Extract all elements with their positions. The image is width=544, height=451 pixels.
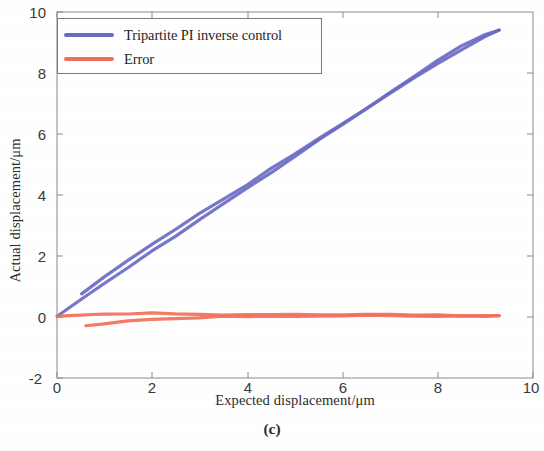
y-tick-label-8: 8 <box>16 65 46 82</box>
y-tick-label-6: 6 <box>16 126 46 143</box>
x-tick-label-6: 6 <box>328 379 358 396</box>
x-tick-label-8: 8 <box>423 379 453 396</box>
x-axis-label: Expected displacement/μm <box>57 392 533 409</box>
x-tick-label-10: 10 <box>516 379 544 396</box>
figure-panel: Actual displacement/μm Expected displace… <box>0 0 544 451</box>
x-tick-label-2: 2 <box>137 379 167 396</box>
legend-swatch-tripartite <box>64 33 114 37</box>
legend-entry-tripartite: Tripartite PI inverse control <box>64 24 282 46</box>
x-tick-label-0: 0 <box>42 379 72 396</box>
y-tick-label-neg2: -2 <box>12 370 42 387</box>
figure-caption: (c) <box>0 420 544 438</box>
legend-label-error: Error <box>124 51 154 68</box>
y-tick-label-2: 2 <box>16 248 46 265</box>
legend-entry-error: Error <box>64 48 154 70</box>
legend-label-tripartite: Tripartite PI inverse control <box>124 27 282 44</box>
legend-swatch-error <box>64 57 114 61</box>
y-tick-label-4: 4 <box>16 187 46 204</box>
x-tick-label-4: 4 <box>233 379 263 396</box>
y-tick-label-0: 0 <box>16 309 46 326</box>
chart-legend: Tripartite PI inverse control Error <box>57 18 322 74</box>
y-tick-label-10: 10 <box>16 4 46 21</box>
